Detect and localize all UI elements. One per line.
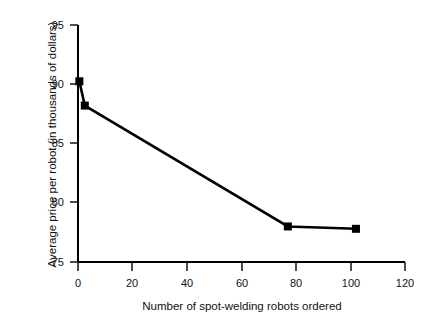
data-point-marker (352, 225, 360, 233)
x-axis-ticks (78, 262, 405, 271)
data-point-marker (75, 77, 83, 85)
line-chart: 95 90 85 80 75 0 20 40 60 80 100 120 Ave… (0, 0, 429, 323)
x-axis-title: Number of spot-welding robots ordered (78, 300, 406, 313)
data-point-marker (81, 102, 89, 110)
x-tick-label-40: 40 (170, 278, 204, 289)
y-axis-ticks (70, 25, 78, 262)
data-series-markers (75, 77, 360, 233)
x-tick-label-80: 80 (279, 278, 313, 289)
data-series-line (79, 81, 356, 229)
x-tick-label-60: 60 (225, 278, 259, 289)
plot-area (0, 0, 429, 323)
y-axis-title: Average price per robot (in thousands of… (46, 21, 59, 269)
x-tick-label-120: 120 (388, 278, 422, 289)
x-tick-label-0: 0 (61, 278, 95, 289)
x-tick-label-20: 20 (115, 278, 149, 289)
data-point-marker (284, 222, 292, 230)
x-tick-label-100: 100 (334, 278, 368, 289)
